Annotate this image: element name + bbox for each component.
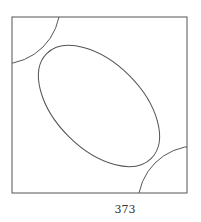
- geometry-figure: [0, 0, 201, 222]
- top-left-corner-arc: [0, 0, 60, 64]
- tilted-ellipse: [16, 23, 181, 188]
- page-number: 373: [100, 203, 150, 216]
- square-frame: [12, 17, 187, 193]
